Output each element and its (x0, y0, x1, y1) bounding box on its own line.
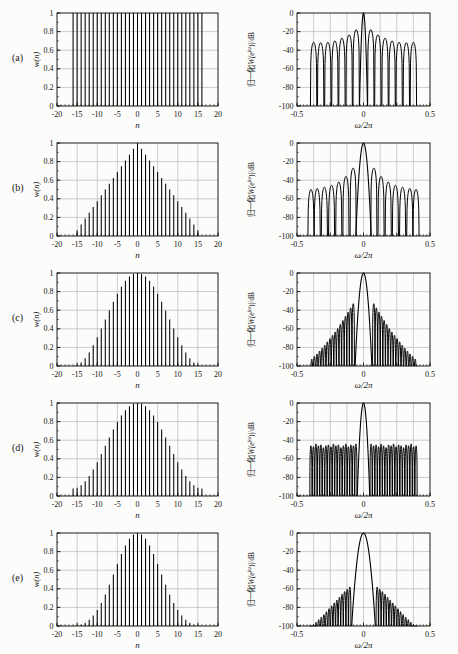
svg-text:-10: -10 (92, 500, 103, 509)
svg-text:15: 15 (194, 500, 202, 509)
svg-text:0.4: 0.4 (44, 454, 54, 463)
svg-text:0: 0 (50, 102, 54, 111)
svg-text:0: 0 (290, 269, 294, 278)
svg-text:0.8: 0.8 (44, 157, 54, 166)
svg-text:0: 0 (136, 240, 140, 249)
svg-text:0.4: 0.4 (44, 584, 54, 593)
svg-text:-20: -20 (283, 27, 294, 36)
svg-text:1: 1 (50, 9, 54, 18)
svg-text:0: 0 (290, 399, 294, 408)
freq-plot-c: -0.500.50-20-40-60-80-100ω/2π归一化|W(ejω)|… (240, 260, 458, 390)
svg-text:0: 0 (290, 139, 294, 148)
svg-text:0: 0 (362, 370, 366, 379)
svg-text:0.6: 0.6 (44, 436, 54, 445)
svg-text:0.8: 0.8 (44, 547, 54, 556)
svg-text:-0.5: -0.5 (291, 630, 304, 639)
svg-text:ω/2π: ω/2π (355, 250, 373, 260)
svg-text:w(n): w(n) (31, 572, 41, 588)
svg-text:1: 1 (50, 269, 54, 278)
svg-text:-100: -100 (279, 102, 294, 111)
svg-text:-20: -20 (283, 547, 294, 556)
svg-text:-5: -5 (114, 500, 121, 509)
svg-text:0.8: 0.8 (44, 27, 54, 36)
svg-text:ω/2π: ω/2π (355, 380, 373, 390)
svg-text:20: 20 (214, 500, 222, 509)
svg-text:w(n): w(n) (31, 182, 41, 198)
svg-text:0: 0 (50, 232, 54, 241)
svg-text:-40: -40 (283, 306, 294, 315)
svg-text:10: 10 (174, 370, 182, 379)
svg-text:-20: -20 (283, 417, 294, 426)
svg-text:5: 5 (156, 630, 160, 639)
svg-text:0.5: 0.5 (425, 110, 435, 119)
svg-text:1: 1 (50, 399, 54, 408)
freq-ylabel: 归一化|W(ejω)|/dB (246, 292, 256, 347)
svg-text:10: 10 (174, 240, 182, 249)
svg-text:-40: -40 (283, 566, 294, 575)
figure-row-c: (c) -20-15-10-50510152000.20.40.60.81nw(… (0, 260, 458, 394)
svg-text:w(n): w(n) (31, 442, 41, 458)
svg-text:n: n (135, 120, 140, 130)
svg-text:0: 0 (290, 529, 294, 538)
svg-text:15: 15 (194, 370, 202, 379)
svg-text:-60: -60 (283, 454, 294, 463)
svg-text:5: 5 (156, 110, 160, 119)
svg-text:-40: -40 (283, 176, 294, 185)
svg-text:-80: -80 (283, 603, 294, 612)
freq-ylabel: 归一化|W(ejω)|/dB (246, 422, 256, 477)
svg-text:0: 0 (136, 370, 140, 379)
svg-text:15: 15 (194, 630, 202, 639)
svg-text:-100: -100 (279, 232, 294, 241)
svg-text:-80: -80 (283, 83, 294, 92)
svg-text:0: 0 (136, 500, 140, 509)
svg-text:-80: -80 (283, 213, 294, 222)
svg-text:1: 1 (50, 529, 54, 538)
svg-text:-15: -15 (72, 500, 83, 509)
svg-text:n: n (135, 510, 140, 520)
svg-text:0.4: 0.4 (44, 194, 54, 203)
svg-text:-60: -60 (283, 194, 294, 203)
svg-text:0.5: 0.5 (425, 630, 435, 639)
svg-text:n: n (135, 380, 140, 390)
svg-text:-5: -5 (114, 370, 121, 379)
svg-text:-5: -5 (114, 240, 121, 249)
svg-text:-20: -20 (283, 157, 294, 166)
svg-text:10: 10 (174, 110, 182, 119)
time-plot-d: -20-15-10-50510152000.20.40.60.81nw(n) (0, 390, 240, 520)
time-plot-c: -20-15-10-50510152000.20.40.60.81nw(n) (0, 260, 240, 390)
freq-plot-a: -0.500.50-20-40-60-80-100ω/2π归一化|W(ejω)|… (240, 0, 458, 130)
svg-text:5: 5 (156, 370, 160, 379)
svg-text:0: 0 (136, 630, 140, 639)
svg-text:0: 0 (362, 240, 366, 249)
svg-text:0: 0 (362, 630, 366, 639)
svg-text:-60: -60 (283, 584, 294, 593)
freq-plot-d: -0.500.50-20-40-60-80-100ω/2π归一化|W(ejω)|… (240, 390, 458, 520)
svg-text:n: n (135, 250, 140, 260)
stem-series (73, 13, 202, 106)
svg-text:w(n): w(n) (31, 312, 41, 328)
svg-text:15: 15 (194, 240, 202, 249)
svg-text:-60: -60 (283, 324, 294, 333)
svg-text:0.5: 0.5 (425, 240, 435, 249)
svg-text:-5: -5 (114, 630, 121, 639)
svg-text:-15: -15 (72, 240, 83, 249)
figure-row-a: (a) -20-15-10-50510152000.20.40.60.81nw(… (0, 0, 458, 134)
svg-text:0.6: 0.6 (44, 566, 54, 575)
svg-text:5: 5 (156, 240, 160, 249)
svg-text:-0.5: -0.5 (291, 500, 304, 509)
svg-text:-20: -20 (52, 110, 63, 119)
svg-text:-20: -20 (52, 500, 63, 509)
window-functions-figure: (a) -20-15-10-50510152000.20.40.60.81nw(… (0, 0, 458, 654)
svg-text:w(n): w(n) (31, 52, 41, 68)
svg-text:-80: -80 (283, 343, 294, 352)
svg-text:-100: -100 (279, 362, 294, 371)
time-plot-b: -20-15-10-50510152000.20.40.60.81nw(n) (0, 130, 240, 260)
svg-text:0.4: 0.4 (44, 324, 54, 333)
svg-text:20: 20 (214, 240, 222, 249)
svg-text:0.6: 0.6 (44, 306, 54, 315)
svg-text:0.8: 0.8 (44, 287, 54, 296)
svg-text:20: 20 (214, 630, 222, 639)
svg-text:-40: -40 (283, 46, 294, 55)
svg-text:-100: -100 (279, 492, 294, 501)
freq-axes (297, 273, 430, 366)
